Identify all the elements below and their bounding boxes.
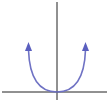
right-arrowhead-icon bbox=[82, 42, 89, 51]
parabola-diagram bbox=[0, 0, 109, 101]
left-arrowhead-icon bbox=[25, 42, 32, 51]
